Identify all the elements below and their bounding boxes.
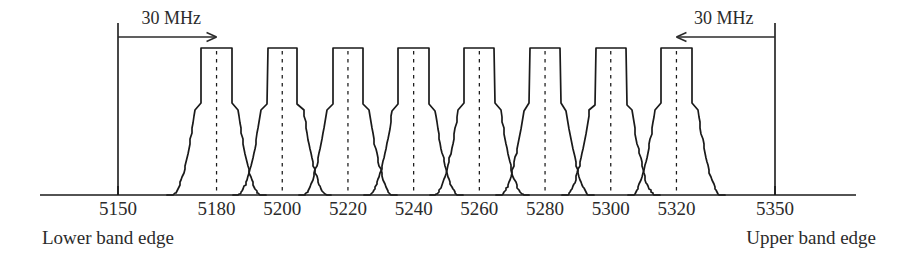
tick-label-5350: 5350 — [756, 198, 794, 219]
tick-label-5260: 5260 — [460, 198, 498, 219]
tick-label-5300: 5300 — [592, 198, 630, 219]
tick-label-5280: 5280 — [526, 198, 564, 219]
guard-band-label-left: 30 MHz — [142, 8, 202, 28]
tick-label-5240: 5240 — [395, 198, 433, 219]
spectrum-chart: 5150518052005220524052605280530053205350… — [0, 0, 918, 262]
guard-band-arrows-group — [118, 33, 775, 42]
tick-label-5320: 5320 — [657, 198, 695, 219]
guard-band-label-right: 30 MHz — [694, 8, 754, 28]
tick-labels-group: 5150518052005220524052605280530053205350 — [99, 198, 794, 219]
guard-band-arrow-left — [118, 33, 217, 42]
tick-label-5180: 5180 — [198, 198, 236, 219]
tick-label-5150: 5150 — [99, 198, 137, 219]
lower-band-edge-label: Lower band edge — [42, 227, 174, 248]
tick-label-5220: 5220 — [329, 198, 367, 219]
channel-masks-group — [167, 48, 725, 195]
tick-label-5200: 5200 — [263, 198, 301, 219]
annotation-labels-group: 30 MHz30 MHzLower band edgeUpper band ed… — [42, 8, 876, 248]
spectral-mask-figure: 5150518052005220524052605280530053205350… — [0, 0, 918, 262]
upper-band-edge-label: Upper band edge — [746, 227, 876, 248]
guard-band-arrow-right — [676, 33, 775, 42]
